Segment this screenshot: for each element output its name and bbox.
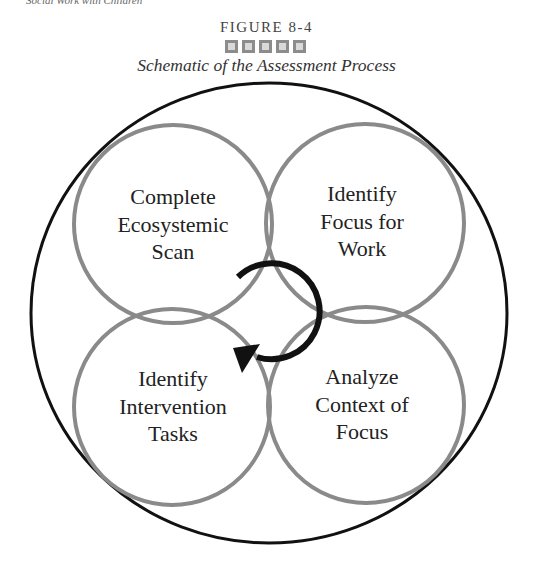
node-line: Intervention bbox=[93, 393, 253, 421]
node-analyze-context-of-focus: Analyze Context of Focus bbox=[282, 363, 442, 446]
node-line: Identify bbox=[282, 180, 442, 208]
node-line: Work bbox=[282, 235, 442, 263]
node-line: Tasks bbox=[93, 420, 253, 448]
cycle-arrow-icon bbox=[233, 263, 320, 373]
node-line: Identify bbox=[93, 365, 253, 393]
node-line: Focus for bbox=[282, 208, 442, 236]
node-line: Focus bbox=[282, 418, 442, 446]
node-identify-intervention-tasks: Identify Intervention Tasks bbox=[93, 365, 253, 448]
node-identify-focus-for-work: Identify Focus for Work bbox=[282, 180, 442, 263]
node-line: Scan bbox=[93, 238, 253, 266]
assessment-diagram bbox=[0, 0, 533, 571]
node-complete-ecosystemic-scan: Complete Ecosystemic Scan bbox=[93, 183, 253, 266]
node-line: Complete bbox=[93, 183, 253, 211]
node-line: Ecosystemic bbox=[93, 211, 253, 239]
node-line: Analyze bbox=[282, 363, 442, 391]
node-line: Context of bbox=[282, 391, 442, 419]
